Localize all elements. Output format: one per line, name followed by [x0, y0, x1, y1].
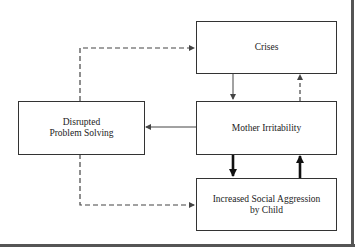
node-mother-irritability-label: Mother Irritability: [232, 123, 301, 134]
node-increased-social-aggression: Increased Social Aggression by Child: [196, 178, 337, 231]
node-disrupted-label-line1: Disrupted: [49, 117, 113, 128]
node-disrupted-problem-solving: Disrupted Problem Solving: [18, 101, 145, 155]
node-mother-irritability: Mother Irritability: [196, 101, 337, 155]
edge-disrupted-to-crises: [80, 48, 194, 101]
node-crises-label: Crises: [255, 42, 279, 53]
diagram-canvas: Crises Mother Irritability Increased Soc…: [0, 0, 355, 247]
node-crises: Crises: [196, 21, 337, 74]
node-aggression-label-line2: by Child: [213, 205, 321, 216]
edge-disrupted-to-aggression: [80, 154, 194, 205]
node-disrupted-label-line2: Problem Solving: [49, 128, 113, 139]
node-aggression-label-line1: Increased Social Aggression: [213, 194, 321, 205]
